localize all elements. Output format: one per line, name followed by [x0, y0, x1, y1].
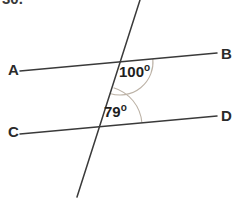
vertex-label-c: C [8, 124, 19, 139]
angle-value-upper: 100 [119, 63, 144, 80]
angle-label-lower: 79o [104, 103, 127, 119]
angle-label-upper: 100o [119, 63, 150, 79]
angle-value-lower: 79 [104, 103, 121, 120]
degree-symbol-upper: o [144, 62, 150, 73]
geometry-canvas [0, 0, 236, 202]
vertex-label-a: A [8, 62, 19, 77]
degree-symbol-lower: o [121, 102, 127, 113]
vertex-label-b: B [221, 46, 232, 61]
vertex-label-d: D [221, 108, 232, 123]
geometry-figure: 30. A B C D 100o 79o [0, 0, 236, 202]
